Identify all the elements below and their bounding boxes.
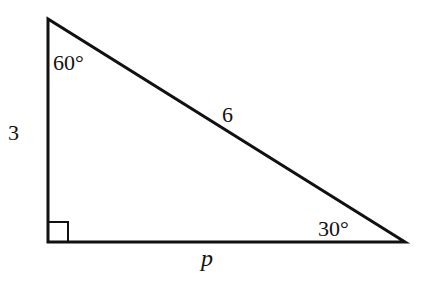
side-vertical-label: 3 <box>8 120 19 145</box>
triangle <box>48 19 405 242</box>
triangle-diagram: 60° 3 6 30° p <box>0 0 422 287</box>
side-base-label: p <box>199 245 213 271</box>
angle-right-label: 30° <box>318 216 349 241</box>
side-hypotenuse-label: 6 <box>222 102 233 127</box>
angle-top-label: 60° <box>53 50 84 75</box>
right-angle-marker <box>48 222 68 242</box>
